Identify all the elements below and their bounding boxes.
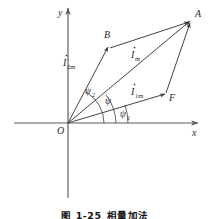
angle-psi-label: ψ [105, 96, 112, 106]
point-a-label: A [194, 8, 202, 19]
parallelogram-edges [110, 22, 190, 93]
vector-im-line [68, 21, 190, 123]
point-f-label: F [168, 92, 176, 103]
origin-label: O [57, 125, 64, 136]
vector-group [68, 21, 190, 123]
vector-i1m-line [68, 94, 165, 123]
angle-psi1-label: ψ 1 [120, 109, 130, 121]
phasor-dot-i1m [134, 84, 136, 86]
vector-i1m-sub: 1m [135, 92, 143, 99]
phasor-addition-figure: y x O A B F I 2m I m I 1m ψ 2 [0, 0, 210, 219]
angle-psi1-sub: 1 [127, 114, 130, 121]
point-b-label: B [104, 29, 110, 40]
vector-i2m-sub: 2m [67, 63, 75, 70]
vector-im-sub: m [135, 55, 140, 62]
x-axis-label: x [191, 127, 197, 138]
figure-caption: 图 1-25相量加法 [0, 205, 210, 219]
angle-psi2-symbol: ψ [85, 86, 92, 96]
y-axis-label: y [57, 7, 63, 18]
vector-i2m-label: I 2m [62, 55, 75, 70]
angle-psi2-label: ψ 2 [85, 86, 96, 98]
figure-caption-number: 图 1-25 [61, 209, 101, 219]
phasor-diagram-canvas: y x O A B F I 2m I m I 1m ψ 2 [0, 0, 210, 219]
vector-im-label: I m [130, 47, 140, 62]
angle-psi2-sub: 2 [92, 91, 96, 98]
edge-b-to-a [110, 22, 189, 48]
angle-psi1-symbol: ψ [120, 109, 127, 119]
vector-i1m-label: I 1m [130, 84, 143, 99]
angle-psi-symbol: ψ [105, 96, 112, 106]
phasor-dot-im [134, 47, 136, 49]
edge-f-to-a [166, 23, 190, 93]
figure-caption-title: 相量加法 [107, 209, 149, 219]
phasor-dot-i2m [66, 55, 68, 57]
